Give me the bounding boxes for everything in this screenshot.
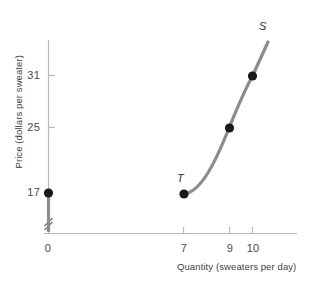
- data-point-marker: [225, 123, 234, 132]
- supply-curve-figure: 31 25 17 0 7 9 10 Price (dollars per swe…: [0, 0, 311, 289]
- x-axis-title: Quantity (sweaters per day): [177, 262, 296, 272]
- point-t-label: T: [177, 173, 184, 184]
- y-tick-label-17: 17: [12, 187, 40, 198]
- data-point-marker: [248, 71, 257, 80]
- supply-curve-line: [184, 42, 268, 194]
- x-tick-label-0: 0: [38, 243, 58, 254]
- y-axis-title: Price (dollars per sweater): [14, 42, 24, 182]
- x-tick-label-7: 7: [174, 243, 194, 254]
- x-tick-label-9: 9: [220, 243, 240, 254]
- data-point-marker: [179, 189, 188, 198]
- x-tick-label-10: 10: [242, 243, 264, 254]
- data-point-marker: [44, 188, 53, 197]
- supply-curve-label: S: [259, 21, 266, 32]
